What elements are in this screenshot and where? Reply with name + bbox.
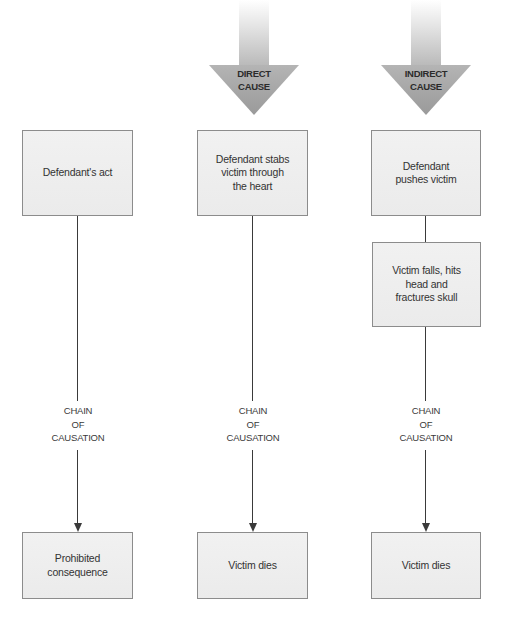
defendant-pushes-box: Defendant pushes victim: [371, 130, 481, 216]
box-text: Victim dies: [402, 559, 450, 573]
connector-line: [252, 216, 253, 401]
arrow-down-icon: [249, 523, 257, 532]
victim-dies-box: Victim dies: [197, 532, 308, 599]
chain-label-line: CHAIN: [381, 404, 471, 418]
indirect-cause-arrow: INDIRECT CAUSE: [381, 0, 471, 116]
cause-label-line2: CAUSE: [381, 80, 471, 93]
box-text: Defendant's act: [43, 166, 113, 180]
connector-line: [77, 216, 78, 401]
box-text: Prohibited consequence: [29, 552, 126, 579]
box-text: Defendant stabs victim through the heart: [214, 153, 292, 194]
connector-line: [252, 450, 253, 524]
chain-label-line: CAUSATION: [208, 431, 298, 445]
cause-label-line1: INDIRECT: [381, 67, 471, 80]
defendant-stabs-box: Defendant stabs victim through the heart: [197, 130, 308, 216]
arrow-shaft: [411, 0, 441, 66]
defendants-act-box: Defendant's act: [22, 130, 133, 216]
chain-label-line: CAUSATION: [33, 431, 123, 445]
connector-line: [425, 327, 426, 401]
chain-of-causation-label: CHAIN OF CAUSATION: [33, 404, 123, 445]
prohibited-consequence-box: Prohibited consequence: [22, 532, 133, 599]
box-text: Defendant pushes victim: [391, 160, 461, 187]
box-text: Victim falls, hits head and fractures sk…: [387, 264, 467, 305]
chain-of-causation-label: CHAIN OF CAUSATION: [208, 404, 298, 445]
chain-of-causation-label: CHAIN OF CAUSATION: [381, 404, 471, 445]
box-text: Victim dies: [228, 559, 276, 573]
chain-label-line: CHAIN: [208, 404, 298, 418]
arrow-down-icon: [422, 523, 430, 532]
chain-label-line: CAUSATION: [381, 431, 471, 445]
indirect-cause-label: INDIRECT CAUSE: [381, 67, 471, 93]
cause-label-line1: DIRECT: [209, 67, 299, 80]
arrow-down-icon: [74, 523, 82, 532]
arrow-shaft: [239, 0, 269, 66]
cause-label-line2: CAUSE: [209, 80, 299, 93]
chain-label-line: OF: [208, 418, 298, 432]
victim-falls-box: Victim falls, hits head and fractures sk…: [372, 242, 481, 327]
direct-cause-arrow: DIRECT CAUSE: [209, 0, 299, 116]
connector-line: [77, 450, 78, 524]
chain-label-line: CHAIN: [33, 404, 123, 418]
direct-cause-label: DIRECT CAUSE: [209, 67, 299, 93]
victim-dies-box: Victim dies: [371, 532, 481, 599]
connector-line: [425, 216, 426, 243]
connector-line: [425, 450, 426, 524]
chain-label-line: OF: [381, 418, 471, 432]
chain-label-line: OF: [33, 418, 123, 432]
